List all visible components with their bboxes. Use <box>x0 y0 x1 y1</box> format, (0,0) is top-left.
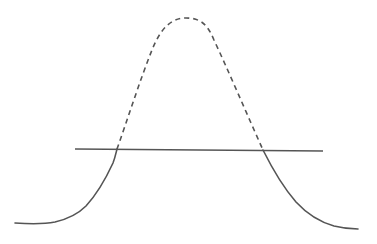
curve-dashed-peak-segment <box>117 18 263 150</box>
curve-left-solid-segment <box>15 149 117 224</box>
curve-right-solid-segment <box>263 150 358 229</box>
threshold-curve-diagram <box>0 0 377 244</box>
diagram-canvas <box>0 0 377 244</box>
threshold-line <box>75 149 323 151</box>
